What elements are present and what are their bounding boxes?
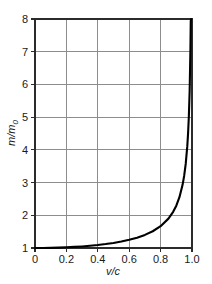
- chart-svg: 00.20.40.60.81.0 12345678 v/c m/m0: [0, 0, 212, 284]
- x-tick-label: 0: [32, 253, 38, 265]
- y-tick-label: 3: [22, 177, 28, 189]
- y-tick-label: 2: [22, 209, 28, 221]
- x-axis-title: v/c: [106, 265, 121, 277]
- x-tick-label: 0.8: [153, 253, 168, 265]
- y-tick-label: 4: [22, 144, 28, 156]
- relativistic-mass-chart: 00.20.40.60.81.0 12345678 v/c m/m0: [0, 0, 212, 284]
- chart-background: [0, 0, 212, 284]
- x-tick-label: 0.6: [122, 253, 137, 265]
- x-tick-label: 1.0: [184, 253, 199, 265]
- y-tick-label: 6: [22, 78, 28, 90]
- y-tick-label: 8: [22, 13, 28, 25]
- x-tick-label: 0.4: [90, 253, 105, 265]
- y-tick-label: 5: [22, 111, 28, 123]
- y-tick-label: 7: [22, 46, 28, 58]
- x-tick-label: 0.2: [59, 253, 74, 265]
- y-tick-label: 1: [22, 242, 28, 254]
